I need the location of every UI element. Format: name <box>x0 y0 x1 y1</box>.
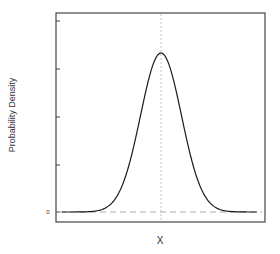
x-axis-label: X <box>157 235 164 246</box>
y-axis-label: Probability Density <box>7 78 17 153</box>
density-curve <box>62 53 257 212</box>
plot-frame <box>56 13 265 222</box>
chart-canvas <box>0 0 280 254</box>
y-tick-label-zero: 0 <box>46 209 49 215</box>
